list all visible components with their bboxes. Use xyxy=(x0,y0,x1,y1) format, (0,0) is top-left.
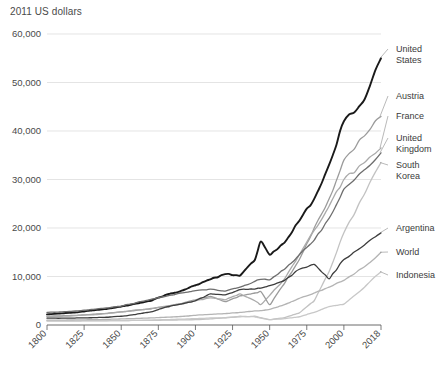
x-axis-tick-label: 2000 xyxy=(323,328,346,351)
series-label-france: France xyxy=(396,111,424,121)
y-axis-tick-label: 30,000 xyxy=(12,174,41,185)
x-axis-tick-label: 1875 xyxy=(137,328,160,351)
series-label-text: World xyxy=(396,247,419,257)
series-label-line1: South xyxy=(396,160,420,170)
x-axis-tick-label: 1825 xyxy=(63,328,86,351)
series-label-line1: United xyxy=(396,44,422,54)
leader-line-united-states xyxy=(380,49,388,58)
series-line-france xyxy=(47,148,381,317)
series-label-line2: Korea xyxy=(396,171,420,181)
series-label-text: Indonesia xyxy=(396,270,435,280)
series-label-line1: United xyxy=(396,133,422,143)
chart-container: 2011 US dollars 010,00020,00030,00040,00… xyxy=(0,0,446,369)
x-axis-tick-label: 1900 xyxy=(174,328,197,351)
y-axis-tick-label: 10,000 xyxy=(12,271,41,282)
series-label-united-states: UnitedStates xyxy=(396,44,422,65)
leader-line-south-korea xyxy=(380,163,388,166)
y-axis-tick-label: 20,000 xyxy=(12,222,41,233)
leader-line-france xyxy=(380,116,388,148)
x-axis-tick-label: 1800 xyxy=(26,328,49,351)
x-axis-tick-label: 1925 xyxy=(211,328,234,351)
x-axis-tick-label: 1975 xyxy=(285,328,308,351)
series-label-united-kingdom: UnitedKingdom xyxy=(396,133,432,154)
leader-line-indonesia xyxy=(380,272,388,275)
series-label-south-korea: SouthKorea xyxy=(396,160,420,181)
series-label-world: World xyxy=(396,247,419,257)
series-line-argentina xyxy=(47,233,381,318)
series-label-argentina: Argentina xyxy=(396,223,435,233)
series-label-text: Austria xyxy=(396,91,424,101)
series-label-austria: Austria xyxy=(396,91,424,101)
series-label-line2: Kingdom xyxy=(396,144,432,154)
line-chart-plot: 010,00020,00030,00040,00050,00060,000180… xyxy=(0,0,446,369)
x-axis-tick-label: 1850 xyxy=(100,328,123,351)
series-label-indonesia: Indonesia xyxy=(396,270,435,280)
y-axis-tick-label: 60,000 xyxy=(12,28,41,39)
leader-line-argentina xyxy=(380,228,388,233)
y-axis-tick-label: 50,000 xyxy=(12,77,41,88)
leader-line-austria xyxy=(380,96,388,116)
x-axis-tick-label: 1950 xyxy=(248,328,271,351)
series-label-text: Argentina xyxy=(396,223,435,233)
x-axis-tick-label: 2018 xyxy=(360,328,383,351)
series-label-line2: States xyxy=(396,55,422,65)
leader-line-united-kingdom xyxy=(380,138,388,153)
y-axis-tick-label: 40,000 xyxy=(12,125,41,136)
series-line-united-kingdom xyxy=(47,153,381,313)
series-label-text: France xyxy=(396,111,424,121)
